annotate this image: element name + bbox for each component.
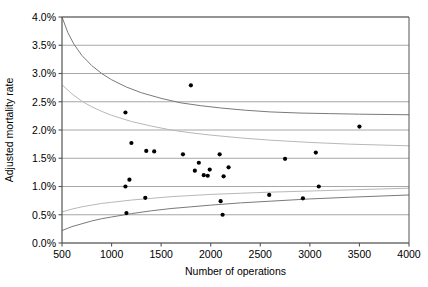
funnel-plot-figure: 0.0%0.5%1.0%1.5%2.0%2.5%3.0%3.5%4.0%5001… [0, 0, 428, 287]
xtick-label-4: 2500 [249, 248, 273, 260]
data-point [127, 178, 131, 182]
ytick-label-3: 1.5% [32, 152, 56, 164]
ytick-label-8: 4.0% [32, 11, 56, 23]
data-point [317, 184, 321, 188]
data-point [123, 184, 127, 188]
data-point [129, 141, 133, 145]
x-axis-title: Number of operations [185, 265, 286, 277]
xtick-label-0: 500 [53, 248, 71, 260]
data-point [124, 211, 128, 215]
xtick-label-6: 3500 [348, 248, 372, 260]
data-point [219, 199, 223, 203]
data-point [283, 157, 287, 161]
data-point [226, 165, 230, 169]
data-point [152, 149, 156, 153]
xtick-label-7: 4000 [397, 248, 421, 260]
data-point [197, 161, 201, 165]
data-point [218, 152, 222, 156]
data-point [193, 169, 197, 173]
ytick-label-2: 1.0% [32, 180, 56, 192]
data-point [202, 173, 206, 177]
data-point [357, 125, 361, 129]
xtick-label-5: 3000 [298, 248, 322, 260]
data-point [221, 213, 225, 217]
data-point [208, 167, 212, 171]
control-limit-lower-95-limit [62, 188, 409, 212]
data-point [181, 152, 185, 156]
control-limit-lower-99.8-limit [62, 195, 409, 231]
data-point [189, 83, 193, 87]
data-point [144, 149, 148, 153]
data-point [123, 110, 127, 114]
data-point [206, 174, 210, 178]
ytick-label-7: 3.5% [32, 39, 56, 51]
data-point [267, 193, 271, 197]
chart-canvas: 0.0%0.5%1.0%1.5%2.0%2.5%3.0%3.5%4.0%5001… [0, 0, 428, 287]
control-limit-upper-99.8-limit [62, 17, 409, 115]
control-limit-upper-95-limit [62, 85, 409, 146]
xtick-label-3: 2000 [199, 248, 223, 260]
data-point [222, 174, 226, 178]
data-point [301, 196, 305, 200]
ytick-label-1: 0.5% [32, 209, 56, 221]
data-point [143, 196, 147, 200]
xtick-label-2: 1500 [149, 248, 173, 260]
ytick-label-5: 2.5% [32, 96, 56, 108]
y-axis-title: Adjusted mortality rate [3, 78, 15, 183]
data-point [314, 151, 318, 155]
xtick-label-1: 1000 [100, 248, 124, 260]
ytick-label-4: 2.0% [32, 124, 56, 136]
ytick-label-0: 0.0% [32, 237, 56, 249]
ytick-label-6: 3.0% [32, 67, 56, 79]
